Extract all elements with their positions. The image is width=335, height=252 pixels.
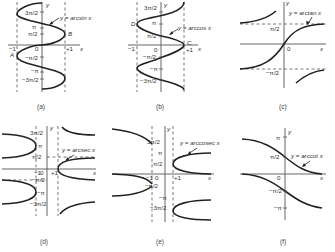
- pos-one-label: +1: [51, 169, 59, 176]
- function-label: y = arccos x: [177, 24, 212, 31]
- arcsec-curve-right-3: [60, 202, 95, 214]
- tick-label: −π: [37, 189, 45, 196]
- tick-label: −π/2: [25, 54, 39, 61]
- arrow-head-icon: [49, 21, 53, 25]
- pos-one-label: +1: [66, 45, 74, 52]
- x-axis-label: x: [79, 45, 84, 52]
- tick-label: −π: [159, 194, 167, 201]
- x-axis-label: x: [319, 174, 324, 181]
- neg-one-label: −1: [128, 45, 136, 52]
- tick-label: −π: [31, 67, 39, 74]
- panel-caption: (e): [156, 238, 164, 246]
- tick-label: π/2: [270, 153, 280, 160]
- tick-label: −π: [274, 204, 282, 211]
- arrow-head-icon: [169, 31, 173, 35]
- function-label: y = arccosec x: [179, 139, 221, 146]
- arcsec-curve-right-1: [62, 127, 95, 135]
- tick-label: 3π/2: [147, 138, 160, 145]
- tick-label: 3π/2: [25, 9, 38, 16]
- x-axis-label: x: [319, 45, 324, 52]
- tick-label: π: [158, 149, 162, 156]
- arccosec-curve-right-1: [173, 153, 211, 174]
- tick-label: π/2: [32, 153, 42, 160]
- arrow-head-icon: [302, 163, 306, 167]
- function-label: y = arcsec x: [61, 146, 96, 153]
- panel-caption: (c): [279, 103, 287, 111]
- arctan-curve-upper: [240, 11, 276, 23]
- function-label: y = arccot x: [290, 152, 324, 159]
- arccosec-curve-left-1: [112, 129, 152, 144]
- point-label-d: D: [131, 20, 136, 27]
- arcsec-curve-left-1: [2, 134, 36, 158]
- tick-label: 3π/2: [144, 4, 157, 11]
- y-axis-label: y: [166, 125, 171, 132]
- panel-e: 3π/2 π π/2 −π/2 −π −3π/2 y x 0 −1 +1 y =…: [112, 125, 221, 246]
- tick-label: −π/2: [269, 187, 283, 194]
- tick-label: −3π/2: [150, 204, 167, 211]
- tick-label: −3π/2: [30, 200, 47, 207]
- y-axis-label: y: [285, 0, 290, 6]
- pos-one-label: +1: [174, 174, 182, 181]
- panel-caption: (b): [156, 103, 164, 111]
- panel-f: π π/2 −π/2 −π y x 0 y = arccot x (f): [240, 128, 326, 246]
- panel-caption: (a): [37, 103, 45, 111]
- tick-label: π: [276, 134, 280, 141]
- origin-label: 0: [287, 45, 291, 52]
- origin-label: 0: [277, 174, 281, 181]
- arctan-curve-lower: [296, 70, 324, 83]
- neg-one-label: −1: [146, 174, 154, 181]
- arctan-curve-principal: [240, 24, 324, 69]
- function-label: y = arcsin x: [59, 14, 92, 21]
- origin-label: 0: [155, 174, 159, 181]
- pos-one-label: +1: [186, 46, 194, 53]
- panel-b: 3π/2 π π/2 −π/2 −π −3π/2 y x 0 −1 +1 C D…: [128, 1, 212, 111]
- tick-label: π/2: [28, 30, 38, 37]
- point-label-c: C: [187, 39, 192, 46]
- point-label-b: B: [68, 30, 72, 37]
- tick-label: π/2: [270, 25, 280, 32]
- tick-label: −π/2: [266, 69, 280, 76]
- tick-label: −3π/2: [22, 76, 39, 83]
- tick-label: 3π/2: [30, 129, 43, 136]
- tick-label: −π/2: [145, 182, 159, 189]
- function-label: y = arctan x: [288, 9, 322, 16]
- panel-caption: (d): [40, 238, 48, 246]
- tick-label: π: [32, 23, 36, 30]
- x-axis-label: x: [197, 45, 202, 52]
- panel-caption: (f): [280, 238, 286, 246]
- origin-label: 0: [154, 46, 158, 53]
- point-label-a: A: [9, 51, 14, 58]
- tick-label: −π: [150, 65, 158, 72]
- x-axis-label: x: [92, 169, 97, 176]
- inverse-trig-figure: 3π/2 π π/2 −π/2 −π −3π/2 y x 0 −1 +1 A B…: [0, 0, 335, 252]
- tick-label: −π/2: [32, 176, 46, 183]
- tick-label: −π/2: [143, 53, 157, 60]
- neg-one-label: −1: [34, 169, 42, 176]
- tick-label: π/2: [153, 160, 163, 167]
- panel-d: 3π/2 π π/2 −π/2 −π −3π/2 y x 0 −1 +1 y =…: [2, 124, 97, 246]
- arccosec-curve-right-2: [173, 200, 211, 220]
- tick-label: π: [152, 19, 156, 26]
- y-axis-label: y: [163, 1, 168, 8]
- tick-label: π: [38, 142, 42, 149]
- y-axis-label: y: [287, 128, 292, 135]
- panel-a: 3π/2 π π/2 −π/2 −π −3π/2 y x 0 −1 +1 A B…: [8, 1, 92, 111]
- y-axis-label: y: [49, 124, 54, 131]
- x-axis-label: x: [207, 174, 212, 181]
- tick-label: π/2: [147, 32, 157, 39]
- origin-label: 0: [35, 45, 39, 52]
- panel-c: π/2 −π/2 y x 0 y = arctan x (c): [240, 0, 326, 111]
- y-axis-label: y: [45, 1, 50, 8]
- tick-label: −3π/2: [140, 77, 157, 84]
